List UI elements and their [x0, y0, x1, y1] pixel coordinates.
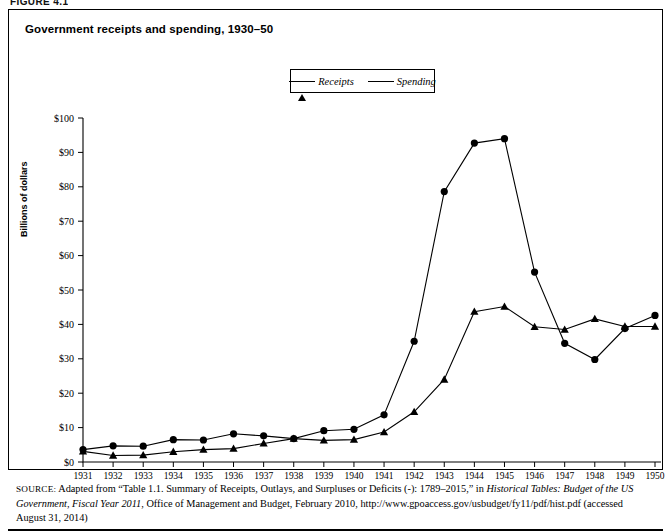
- axis-lines: [83, 118, 661, 462]
- source-kicker: SOURCE:: [16, 484, 56, 494]
- data-point-spending: [501, 135, 508, 142]
- x-tick-label: 1935: [194, 471, 213, 481]
- x-tick-label: 1947: [555, 471, 574, 481]
- x-tick-label: 1938: [284, 471, 303, 481]
- y-tick-label: $20: [59, 388, 74, 399]
- y-tick-label: $70: [59, 216, 74, 227]
- source-note: SOURCE: Adapted from “Table 1.1. Summary…: [16, 482, 652, 526]
- x-tick-label: 1946: [525, 471, 544, 481]
- y-tick-label: $100: [54, 113, 74, 124]
- data-point-spending: [230, 430, 237, 437]
- figure-box: Government receipts and spending, 1930–5…: [8, 9, 663, 470]
- data-point-spending: [380, 411, 387, 418]
- y-tick-label: $80: [59, 181, 74, 192]
- x-tick-label: 1944: [465, 471, 484, 481]
- x-tick-label: 1940: [344, 471, 363, 481]
- data-point-receipts: [500, 302, 508, 309]
- data-point-spending: [140, 443, 147, 450]
- figure-number-label: FIGURE 4.1: [10, 0, 68, 6]
- data-point-spending: [79, 446, 86, 453]
- data-point-spending: [471, 140, 478, 147]
- data-point-spending: [621, 325, 628, 332]
- y-tick-label: $10: [59, 422, 74, 433]
- bottom-divider: [8, 529, 663, 531]
- data-point-spending: [260, 432, 267, 439]
- data-point-receipts: [530, 323, 538, 330]
- data-point-spending: [320, 427, 327, 434]
- data-point-spending: [411, 338, 418, 345]
- data-point-receipts: [380, 428, 388, 435]
- x-tick-label: 1936: [224, 471, 243, 481]
- data-point-spending: [441, 188, 448, 195]
- x-tick-label: 1937: [254, 471, 273, 481]
- x-tick-label: 1933: [134, 471, 153, 481]
- data-point-receipts: [591, 315, 599, 322]
- x-axis-ticks: 1931193219331934193519361937193819391940…: [74, 462, 665, 481]
- plot-area: Billions of dollars $0$10$20$30$40$50$60…: [9, 10, 664, 471]
- y-tick-label: $0: [64, 457, 74, 468]
- x-tick-label: 1948: [585, 471, 604, 481]
- x-tick-label: 1945: [495, 471, 514, 481]
- figure-page: FIGURE 4.1 Government receipts and spend…: [0, 0, 672, 532]
- data-point-spending: [591, 356, 598, 363]
- x-tick-label: 1949: [615, 471, 634, 481]
- data-series-layer: [79, 135, 659, 459]
- series-line-spending: [83, 139, 655, 450]
- x-tick-label: 1934: [164, 471, 183, 481]
- x-tick-label: 1941: [375, 471, 394, 481]
- x-tick-label: 1942: [405, 471, 424, 481]
- y-tick-label: $30: [59, 353, 74, 364]
- line-chart: $0$10$20$30$40$50$60$70$80$90$100 193119…: [9, 10, 664, 471]
- x-tick-label: 1939: [314, 471, 333, 481]
- data-point-spending: [110, 442, 117, 449]
- y-tick-label: $90: [59, 147, 74, 158]
- source-text-1: Adapted from “Table 1.1. Summary of Rece…: [56, 483, 486, 494]
- x-tick-label: 1950: [646, 471, 665, 481]
- y-axis-ticks: $0$10$20$30$40$50$60$70$80$90$100: [54, 113, 83, 468]
- data-point-spending: [350, 426, 357, 433]
- data-point-spending: [531, 269, 538, 276]
- y-tick-label: $40: [59, 319, 74, 330]
- x-tick-label: 1943: [435, 471, 454, 481]
- data-point-spending: [651, 312, 658, 319]
- y-tick-label: $60: [59, 250, 74, 261]
- data-point-spending: [170, 436, 177, 443]
- series-line-receipts: [83, 307, 655, 456]
- data-point-spending: [290, 435, 297, 442]
- x-tick-label: 1932: [104, 471, 123, 481]
- data-point-spending: [200, 436, 207, 443]
- data-point-receipts: [440, 375, 448, 382]
- data-point-spending: [561, 340, 568, 347]
- y-tick-label: $50: [59, 285, 74, 296]
- x-tick-label: 1931: [74, 471, 93, 481]
